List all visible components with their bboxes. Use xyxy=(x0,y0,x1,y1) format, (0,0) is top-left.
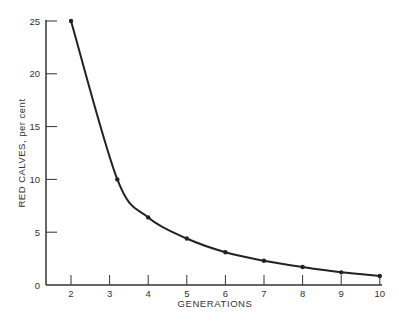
x-tick-label: 2 xyxy=(68,288,73,299)
tick-labels: 23456789100510152025 xyxy=(29,16,385,300)
data-point xyxy=(69,19,73,23)
data-curve xyxy=(71,21,380,276)
x-tick-label: 7 xyxy=(261,288,266,299)
y-tick-label: 5 xyxy=(35,227,40,238)
data-point xyxy=(115,177,119,181)
x-tick-label: 10 xyxy=(375,288,386,299)
data-points xyxy=(69,19,382,278)
x-tick-label: 8 xyxy=(300,288,305,299)
y-tick-label: 0 xyxy=(35,280,40,291)
y-tick-label: 10 xyxy=(29,174,40,185)
data-point xyxy=(146,215,150,219)
y-axis-label: RED CALVES, per cent xyxy=(16,98,27,207)
y-tick-label: 25 xyxy=(29,16,40,27)
axes xyxy=(46,20,382,285)
x-axis-label: GENERATIONS xyxy=(177,298,252,309)
data-point xyxy=(185,236,189,240)
y-tick-label: 15 xyxy=(29,121,40,132)
data-point xyxy=(223,250,227,254)
x-tick-label: 4 xyxy=(146,288,151,299)
data-point xyxy=(339,270,343,274)
y-tick-label: 20 xyxy=(29,68,40,79)
data-point xyxy=(262,259,266,263)
data-point xyxy=(300,265,304,269)
tick-marks xyxy=(46,21,380,285)
data-point xyxy=(378,274,382,278)
red-calves-chart: 23456789100510152025 GENERATIONS RED CAL… xyxy=(0,0,399,324)
x-tick-label: 3 xyxy=(107,288,112,299)
x-tick-label: 9 xyxy=(339,288,344,299)
